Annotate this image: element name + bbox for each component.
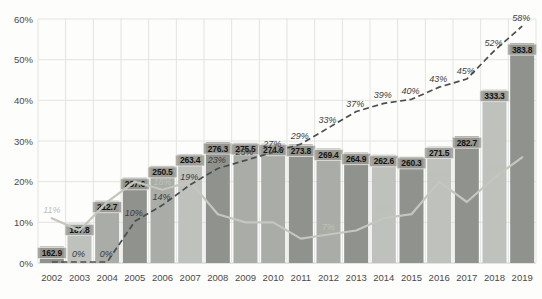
dashed-line-label-2004: 0% [100,249,113,259]
y-axis-tick-20: 20% [14,176,34,187]
y-axis-tick-60: 60% [14,14,34,25]
x-axis-label-2018: 2018 [484,272,505,283]
x-axis-label-2004: 2004 [97,272,118,283]
y-axis-tick-0: 0% [19,258,33,269]
combo-chart-canvas: 0%10%20%30%40%50%60%162.9187.8212.7237.6… [0,0,542,299]
bar-2011 [289,144,313,263]
x-axis-label-2008: 2008 [207,272,228,283]
x-axis-label-2019: 2019 [512,272,533,283]
solid-line-label-2014: 11% [375,205,392,215]
x-axis-label-2013: 2013 [346,272,367,283]
dashed-line-label-2007: 19% [180,172,198,182]
bar-2013 [344,153,368,263]
solid-line-label-2018: 21% [484,165,503,175]
dashed-line-label-2017: 45% [457,66,475,76]
y-axis-tick-30: 30% [14,136,34,147]
dashed-line-label-2006: 14% [152,192,170,202]
x-axis-label-2006: 2006 [152,272,173,283]
bar-value-label-2014: 262.6 [374,156,395,166]
bar-value-label-2002: 162.9 [42,248,63,258]
dashed-line-label-2016: 43% [429,74,447,84]
bar-value-label-2007: 263.4 [180,155,201,165]
bar-value-label-2012: 269.4 [318,150,339,160]
x-axis-label-2015: 2015 [401,272,422,283]
x-axis-label-2003: 2003 [69,272,90,283]
bar-value-label-2016: 271.5 [429,148,450,158]
solid-line-label-2012: 7% [322,222,335,232]
dashed-line-label-2019: 58% [512,13,530,23]
dashed-line-label-2011: 29% [290,131,309,141]
x-axis-label-2017: 2017 [456,272,477,283]
dashed-line-label-2012: 33% [318,115,336,125]
x-axis-label-2009: 2009 [235,272,256,283]
bar-2012 [317,148,341,263]
bar-2017 [455,136,479,263]
bar-2019 [510,43,534,263]
solid-line-label-2002: 11% [43,205,60,215]
x-axis-label-2010: 2010 [263,272,284,283]
dashed-line-label-2018: 52% [484,38,502,48]
dashed-line-label-2015: 40% [401,86,419,96]
x-axis-label-2005: 2005 [124,272,145,283]
bar-value-label-2017: 282.7 [457,138,478,148]
y-axis-tick-50: 50% [14,54,34,65]
solid-line-label-2016: 20% [429,169,448,179]
bar-2007 [178,154,202,263]
y-axis-tick-40: 40% [14,95,34,106]
bar-value-label-2019: 383.8 [512,45,533,55]
bar-2015 [400,157,424,263]
y-axis-tick-10: 10% [14,217,34,228]
bar-2010 [261,144,285,263]
bar-value-label-2013: 264.9 [346,154,367,164]
dashed-line-label-2003: 0% [72,249,85,259]
dashed-line-label-2014: 39% [374,90,392,100]
x-axis-label-2014: 2014 [373,272,394,283]
x-axis-label-2012: 2012 [318,272,339,283]
dashed-line-label-2005: 10% [125,208,143,218]
x-axis-label-2016: 2016 [429,272,450,283]
combo-chart: 0%10%20%30%40%50%60%162.9187.8212.7237.6… [0,0,542,299]
bar-2016 [427,147,451,263]
x-axis-label-2002: 2002 [41,272,62,283]
solid-line-label-2006: 18% [153,177,171,187]
x-axis-label-2011: 2011 [291,272,311,283]
dashed-line-label-2013: 37% [346,99,364,109]
x-axis-label-2007: 2007 [180,272,201,283]
bar-value-label-2018: 333.3 [484,91,505,101]
dashed-line-label-2009: 25% [234,147,253,157]
bar-value-label-2008: 276.3 [208,144,229,154]
bar-value-label-2015: 260.3 [401,158,422,168]
bar-value-label-2011: 273.8 [291,146,312,156]
dashed-line-label-2010: 27% [262,139,281,149]
dashed-line-label-2008: 23% [207,155,226,165]
